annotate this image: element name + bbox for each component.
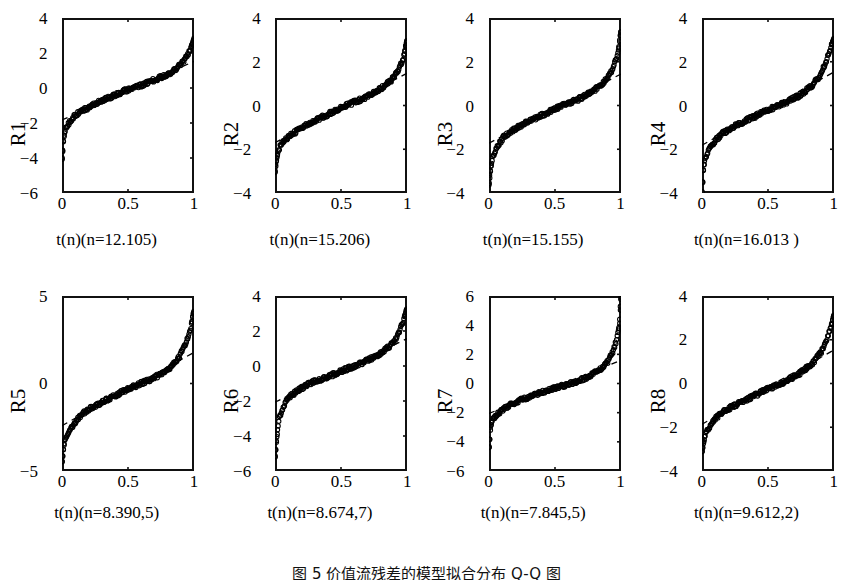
x-tick-label: 0.5 bbox=[544, 195, 565, 212]
scatter-canvas bbox=[62, 18, 194, 193]
plot-area[interactable]: 420−2−4 00.51 bbox=[489, 18, 621, 193]
y-tick-label: 6 bbox=[466, 287, 475, 304]
plot-area[interactable]: 420−2−4 00.51 bbox=[275, 18, 407, 193]
y-tick-label: 0 bbox=[39, 80, 48, 97]
x-tick-label: 0.5 bbox=[544, 473, 565, 490]
y-tick-label: 4 bbox=[252, 287, 261, 304]
x-tick-label: 1 bbox=[830, 195, 839, 212]
x-tick-label: 1 bbox=[830, 473, 839, 490]
scatter-canvas bbox=[702, 296, 834, 471]
scatter-canvas bbox=[489, 18, 621, 193]
panel-R8: R8 420−2−4 00.51 t(n)(n=9.612,2) bbox=[640, 268, 853, 536]
y-tick-label: −4 bbox=[20, 150, 38, 167]
x-tick-label: 0 bbox=[698, 473, 707, 490]
y-tick-label: −2 bbox=[20, 115, 38, 132]
y-tick-label: 0 bbox=[39, 375, 48, 392]
x-tick-labels: 00.51 bbox=[489, 195, 621, 215]
panel-R4: R4 420−2−4 00.51 t(n)(n=16.013 ) bbox=[640, 0, 853, 268]
y-tick-label: −4 bbox=[446, 433, 464, 450]
x-tick-label: 1 bbox=[616, 195, 625, 212]
y-tick-label: −6 bbox=[20, 185, 38, 202]
x-tick-label: 0 bbox=[484, 195, 493, 212]
y-tick-label: 0 bbox=[252, 357, 261, 374]
x-tick-label: 1 bbox=[190, 473, 199, 490]
x-tick-label: 0 bbox=[484, 473, 493, 490]
scatter-canvas bbox=[62, 296, 194, 471]
x-axis-label: t(n)(n=8.674,7) bbox=[213, 503, 426, 523]
x-tick-label: 0 bbox=[58, 473, 67, 490]
plot-area[interactable]: 420−2−4−6 00.51 bbox=[62, 18, 194, 193]
x-tick-label: 0.5 bbox=[757, 473, 778, 490]
y-tick-label: −4 bbox=[660, 462, 678, 479]
y-tick-label: −6 bbox=[446, 462, 464, 479]
panel-R6: R6 420−2−4−6 00.51 t(n)(n=8.674,7) bbox=[213, 268, 426, 536]
x-axis-label: t(n)(n=15.155) bbox=[427, 230, 640, 250]
y-tick-label: 4 bbox=[466, 316, 475, 333]
x-tick-label: 1 bbox=[403, 195, 412, 212]
y-tick-label: 4 bbox=[679, 10, 688, 27]
panel-R5: R5 50−5 00.51 t(n)(n=8.390,5) bbox=[0, 268, 213, 536]
plot-area[interactable]: 50−5 00.51 bbox=[62, 296, 194, 471]
y-tick-label: 2 bbox=[466, 345, 475, 362]
y-axis-label: R8 bbox=[646, 389, 671, 414]
plot-area[interactable]: 420−2−4 00.51 bbox=[702, 296, 834, 471]
x-tick-label: 0 bbox=[271, 195, 280, 212]
y-tick-label: 4 bbox=[39, 10, 48, 27]
y-tick-label: −4 bbox=[233, 185, 251, 202]
y-tick-label: −6 bbox=[233, 462, 251, 479]
x-tick-label: 0 bbox=[58, 195, 67, 212]
y-tick-label: −2 bbox=[446, 141, 464, 158]
scatter-canvas bbox=[489, 296, 621, 471]
x-tick-labels: 00.51 bbox=[275, 195, 407, 215]
y-tick-label: −2 bbox=[660, 141, 678, 158]
scatter-canvas bbox=[702, 18, 834, 193]
y-tick-label: −2 bbox=[660, 418, 678, 435]
figure-caption: 图 5 价值流残差的模型拟合分布 Q-Q 图 bbox=[0, 562, 853, 580]
y-tick-label: −5 bbox=[20, 462, 38, 479]
x-axis-label: t(n)(n=7.845,5) bbox=[427, 503, 640, 523]
x-tick-label: 0.5 bbox=[117, 473, 138, 490]
panel-R2: R2 420−2−4 00.51 t(n)(n=15.206) bbox=[213, 0, 426, 268]
x-axis-label: t(n)(n=16.013 ) bbox=[640, 230, 853, 250]
x-tick-label: 0.5 bbox=[331, 473, 352, 490]
y-tick-label: 0 bbox=[679, 375, 688, 392]
y-tick-label: 2 bbox=[679, 53, 688, 70]
x-tick-label: 0.5 bbox=[117, 195, 138, 212]
panel-R1: R1 420−2−4−6 00.51 t(n)(n=12.105) bbox=[0, 0, 213, 268]
scatter-canvas bbox=[275, 18, 407, 193]
y-tick-label: −2 bbox=[233, 392, 251, 409]
y-tick-label: −4 bbox=[233, 427, 251, 444]
y-tick-label: 0 bbox=[679, 97, 688, 114]
x-tick-labels: 00.51 bbox=[62, 473, 194, 493]
y-tick-label: 2 bbox=[39, 45, 48, 62]
y-tick-label: 4 bbox=[679, 287, 688, 304]
y-tick-label: 2 bbox=[466, 53, 475, 70]
y-tick-label: 4 bbox=[252, 10, 261, 27]
x-tick-label: 1 bbox=[616, 473, 625, 490]
y-tick-label: 0 bbox=[466, 97, 475, 114]
x-tick-labels: 00.51 bbox=[702, 473, 834, 493]
x-tick-label: 0 bbox=[271, 473, 280, 490]
scatter-canvas bbox=[275, 296, 407, 471]
x-tick-label: 0.5 bbox=[331, 195, 352, 212]
y-tick-label: −4 bbox=[446, 185, 464, 202]
x-axis-label: t(n)(n=9.612,2) bbox=[640, 503, 853, 523]
panel-grid: R1 420−2−4−6 00.51 t(n)(n=12.105) R2 420… bbox=[0, 0, 853, 535]
x-tick-label: 1 bbox=[190, 195, 199, 212]
y-tick-label: −2 bbox=[446, 404, 464, 421]
x-axis-label: t(n)(n=15.206) bbox=[213, 230, 426, 250]
x-tick-labels: 00.51 bbox=[489, 473, 621, 493]
panel-R7: R7 6420−2−4−6 00.51 t(n)(n=7.845,5) bbox=[427, 268, 640, 536]
y-tick-label: 5 bbox=[39, 287, 48, 304]
y-tick-label: 4 bbox=[466, 10, 475, 27]
x-tick-label: 1 bbox=[403, 473, 412, 490]
plot-area[interactable]: 420−2−4 00.51 bbox=[702, 18, 834, 193]
x-tick-label: 0.5 bbox=[757, 195, 778, 212]
y-tick-label: 0 bbox=[466, 375, 475, 392]
x-tick-labels: 00.51 bbox=[702, 195, 834, 215]
plot-area[interactable]: 420−2−4−6 00.51 bbox=[275, 296, 407, 471]
y-tick-label: 2 bbox=[679, 331, 688, 348]
y-tick-label: 2 bbox=[252, 322, 261, 339]
plot-area[interactable]: 6420−2−4−6 00.51 bbox=[489, 296, 621, 471]
